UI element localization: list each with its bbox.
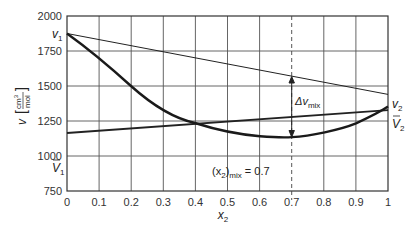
y-tick: 1500	[38, 80, 62, 92]
x-tick: 1	[385, 196, 391, 208]
x-tick-labels: 0 0.1 0.2 0.3 0.4 0.5 0.6 0.7 0.8 0.9 1	[64, 196, 391, 208]
label-v1: v1	[52, 27, 63, 43]
x-tick: 0	[64, 196, 70, 208]
svg-text:V2: V2	[392, 117, 405, 133]
svg-text:]: ]	[13, 87, 29, 91]
x-tick: 0.3	[156, 196, 171, 208]
x-tick: 0.1	[91, 196, 106, 208]
chart: 2000 1750 1500 1250 1000 750 0 0.1 0.2 0…	[0, 0, 415, 228]
y-tick: 1250	[38, 115, 62, 127]
y-tick: 2000	[38, 10, 62, 22]
x-axis-label: x2	[217, 208, 229, 224]
label-V1-bar: V1	[52, 160, 65, 177]
label-V2-bar: V2	[392, 116, 405, 133]
svg-text:v: v	[15, 118, 29, 125]
svg-text:cm3: cm3	[13, 94, 23, 109]
y-axis-label: v [ cm3 mol ]	[13, 87, 32, 125]
svg-text:[: [	[13, 110, 29, 114]
x-tick: 0.5	[220, 196, 235, 208]
x-tick: 0.7	[284, 196, 299, 208]
y-tick: 1750	[38, 45, 62, 57]
y-tick: 750	[44, 185, 62, 197]
x-tick: 0.8	[316, 196, 331, 208]
label-delta-vmix: Δvmix	[294, 95, 320, 110]
x-tick: 0.2	[124, 196, 139, 208]
label-xmix: (x2)mix = 0.7	[212, 165, 270, 180]
svg-text:V1: V1	[52, 161, 65, 177]
x-tick: 0.9	[348, 196, 363, 208]
x-tick: 0.6	[252, 196, 267, 208]
svg-text:mol: mol	[23, 95, 32, 108]
label-v2: v2	[392, 97, 403, 113]
x-tick: 0.4	[188, 196, 203, 208]
